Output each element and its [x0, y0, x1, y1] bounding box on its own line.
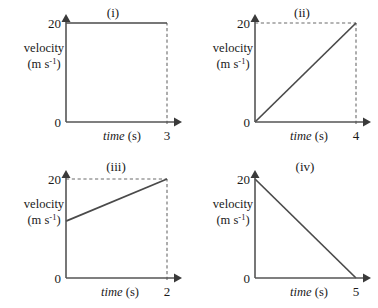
- y-units-open-ii: (m s: [216, 57, 238, 71]
- y-units-exp-iii: -1: [49, 212, 56, 222]
- y-axis-arrow-ii: [251, 14, 260, 22]
- graph-svg-ii: (ii) 20 0 4 time (s) velocity (m s-1): [189, 0, 378, 154]
- y-units-exp-i: -1: [49, 56, 56, 66]
- y-axis-title-name-i: velocity: [24, 41, 65, 55]
- graph-panel-ii: (ii) 20 0 4 time (s) velocity (m s-1): [189, 0, 378, 154]
- y-axis-title-units-ii: (m s-1): [216, 56, 249, 71]
- y-units-close-iv: ): [245, 213, 249, 227]
- y-axis-title-name-ii: velocity: [213, 41, 254, 55]
- graph-svg-i: (i) 20 0 3 time (s) velocity (m s-1): [0, 0, 189, 154]
- panel-label-iii: (iii): [106, 159, 126, 174]
- data-line-iii: [66, 179, 167, 221]
- y-axis-title-name-iv: velocity: [213, 197, 254, 211]
- y-units-open-i: (m s: [27, 57, 49, 71]
- x-axis-title-ii: time (s): [290, 129, 328, 143]
- y-tick-zero-i: 0: [55, 115, 62, 130]
- y-tick-zero-iv: 0: [244, 271, 251, 286]
- y-units-close-i: ): [56, 57, 60, 71]
- y-tick-top-ii: 20: [237, 16, 250, 31]
- y-axis-arrow-iv: [251, 170, 260, 178]
- x-axis-title-units-iv: (s): [315, 285, 328, 299]
- y-axis-title-units-iv: (m s-1): [216, 212, 249, 227]
- x-tick-max-iii: 2: [164, 284, 171, 299]
- y-axis-title-units-i: (m s-1): [27, 56, 60, 71]
- x-axis-arrow-ii: [363, 118, 371, 127]
- x-axis-title-i: time (s): [103, 129, 141, 143]
- y-tick-zero-ii: 0: [244, 115, 251, 130]
- graph-panel-iv: (iv) 20 0 5 time (s) velocity (m s-1): [189, 154, 378, 308]
- y-units-exp-iv: -1: [238, 212, 245, 222]
- graph-svg-iv: (iv) 20 0 5 time (s) velocity (m s-1): [189, 154, 378, 308]
- graph-panel-i: (i) 20 0 3 time (s) velocity (m s-1): [0, 0, 189, 154]
- x-axis-title-iii: time (s): [101, 285, 139, 299]
- x-tick-max-i: 3: [164, 128, 171, 143]
- panel-label-i: (i): [107, 5, 119, 20]
- x-tick-max-iv: 5: [353, 284, 360, 299]
- x-axis-arrow-iii: [174, 274, 182, 283]
- y-tick-top-iii: 20: [48, 172, 61, 187]
- y-units-close-iii: ): [56, 213, 60, 227]
- x-axis-title-units-ii: (s): [315, 129, 328, 143]
- x-axis-title-name-ii: time: [290, 129, 312, 143]
- y-units-open-iv: (m s: [216, 213, 238, 227]
- panel-label-iv: (iv): [296, 159, 315, 174]
- y-tick-zero-iii: 0: [55, 271, 62, 286]
- y-tick-top-i: 20: [48, 16, 61, 31]
- y-units-exp-ii: -1: [238, 56, 245, 66]
- y-axis-title-units-iii: (m s-1): [27, 212, 60, 227]
- x-axis-title-units-iii: (s): [126, 285, 139, 299]
- y-axis-arrow-i: [62, 14, 71, 22]
- x-axis-arrow-iv: [363, 274, 371, 283]
- y-tick-top-iv: 20: [237, 172, 250, 187]
- y-axis-title-name-iii: velocity: [24, 197, 65, 211]
- x-tick-max-ii: 4: [353, 128, 360, 143]
- x-axis-title-name-iii: time: [101, 285, 123, 299]
- velocity-time-graphs-figure: (i) 20 0 3 time (s) velocity (m s-1) (ii…: [0, 0, 378, 308]
- panel-label-ii: (ii): [294, 5, 310, 20]
- y-units-open-iii: (m s: [27, 213, 49, 227]
- x-axis-arrow-i: [174, 118, 182, 127]
- x-axis-title-units-i: (s): [128, 129, 141, 143]
- x-axis-title-iv: time (s): [290, 285, 328, 299]
- x-axis-title-name-iv: time: [290, 285, 312, 299]
- y-axis-arrow-iii: [62, 170, 71, 178]
- data-line-ii: [255, 23, 356, 122]
- graph-svg-iii: (iii) 20 0 2 time (s) velocity (m s-1): [0, 154, 189, 308]
- graph-panel-iii: (iii) 20 0 2 time (s) velocity (m s-1): [0, 154, 189, 308]
- y-units-close-ii: ): [245, 57, 249, 71]
- x-axis-title-name-i: time: [103, 129, 125, 143]
- data-line-iv: [255, 179, 356, 278]
